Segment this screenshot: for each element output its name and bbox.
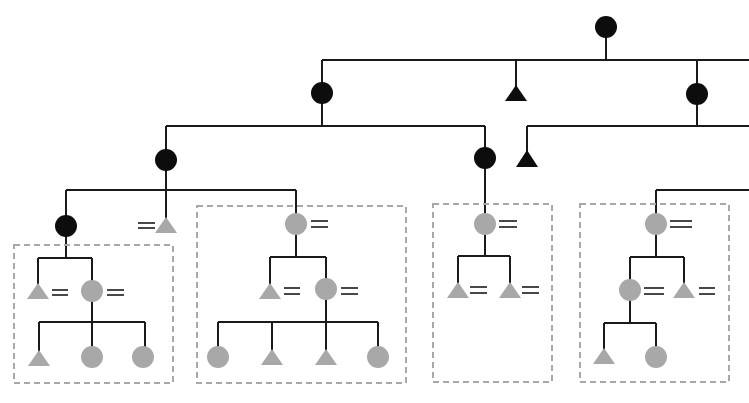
- male-node-icon: [505, 85, 527, 101]
- descendant-nodes: [27, 213, 695, 368]
- female-node-icon: [81, 346, 103, 368]
- connector-lines: [38, 27, 749, 356]
- male-node-icon: [155, 217, 177, 233]
- female-node-icon: [474, 213, 496, 235]
- marriage-mark-icon: [499, 221, 517, 227]
- female-node-icon: [367, 346, 389, 368]
- male-node-icon: [27, 283, 49, 299]
- female-node-icon: [285, 213, 307, 235]
- male-node-icon: [447, 282, 469, 298]
- female-node-icon: [81, 280, 103, 302]
- male-node-icon: [261, 349, 283, 365]
- marriage-mark-icon: [107, 290, 124, 295]
- male-node-icon: [315, 349, 337, 365]
- marriage-mark-icon: [522, 287, 539, 293]
- male-node-icon: [28, 350, 50, 366]
- female-node-icon: [686, 83, 708, 105]
- marriage-mark-icon: [470, 287, 487, 293]
- female-node-icon: [155, 149, 177, 171]
- female-node-icon: [645, 213, 667, 235]
- female-node-icon: [132, 346, 154, 368]
- male-node-icon: [593, 348, 615, 364]
- female-node-icon: [207, 346, 229, 368]
- root-female-icon: [595, 16, 617, 38]
- female-node-icon: [311, 82, 333, 104]
- marriage-mark-icon: [644, 288, 664, 294]
- marriage-mark-icon: [699, 288, 715, 294]
- female-node-icon: [474, 147, 496, 169]
- marriage-marks: [52, 221, 715, 295]
- male-node-icon: [516, 150, 538, 167]
- marriage-mark-icon: [341, 288, 358, 294]
- marriage-mark-icon: [138, 223, 155, 228]
- marriage-mark-icon: [311, 221, 328, 227]
- female-node-icon: [55, 215, 77, 237]
- marriage-mark-icon: [52, 290, 68, 295]
- male-node-icon: [259, 283, 281, 299]
- marriage-mark-icon: [670, 221, 692, 227]
- marriage-mark-icon: [284, 288, 300, 294]
- kinship-diagram: [0, 0, 749, 403]
- female-node-icon: [645, 346, 667, 368]
- female-node-icon: [315, 278, 337, 300]
- male-node-icon: [673, 282, 695, 298]
- male-node-icon: [499, 282, 521, 298]
- female-node-icon: [619, 279, 641, 301]
